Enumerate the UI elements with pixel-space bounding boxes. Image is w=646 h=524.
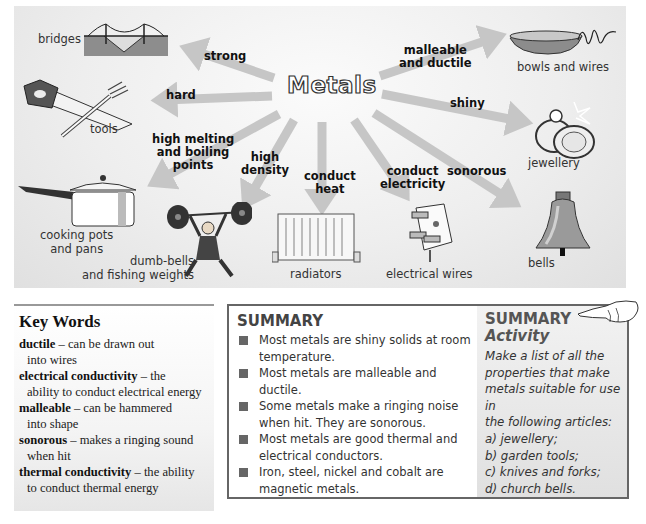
definition-cont: when hit [19,448,214,464]
term: thermal conductivity [19,465,131,479]
summary-heading: SUMMARY [237,312,477,330]
summary-item: Most metals are malleable and ductile. [237,365,477,398]
summary-text: Iron, steel, nickel and cobalt are magne… [259,465,444,496]
property-shiny: shiny [450,97,485,110]
activity-heading-line2: Activity [485,328,627,345]
bullet-square-icon [239,435,248,444]
activity-line: properties that make [485,365,627,382]
property-malleable: malleable and ductile [399,44,472,70]
definition: – makes a ringing sound [67,433,193,447]
definition: – can be hammered [71,401,172,415]
property-hard: hard [166,89,196,102]
caption-line: dumb-bells [82,254,194,268]
property-heat: conduct heat [304,170,356,196]
definition-cont: into shape [19,416,214,432]
label-line: and ductile [399,57,472,70]
property-sonorous: sonorous [447,165,506,178]
activity-heading-line1: SUMMARY [485,310,571,328]
activity-line: the following articles: [485,414,627,431]
summary-item: Some metals make a ringing noise when hi… [237,398,477,431]
activity-line: Make a list of all the [485,348,627,365]
pointing-hand-icon [576,298,642,326]
use-bells: bells [528,256,555,270]
term: malleable [19,401,71,415]
property-density: high density [241,151,289,177]
radiator-icon [272,212,362,266]
definition-cont: into wires [19,352,214,368]
use-jewellery: jewellery [528,156,580,170]
cooking-pot-icon [18,174,144,230]
use-pots: cooking pots and pans [40,228,113,256]
bullet-square-icon [239,402,248,411]
summary-item: Iron, steel, nickel and cobalt are magne… [237,464,477,497]
term: electrical conductivity [19,369,138,383]
term: ductile [19,337,55,351]
property-electricity: conduct electricity [380,165,445,191]
use-wires: electrical wires [386,267,472,281]
summary-panel: SUMMARY Most metals are shiny solids at … [227,304,479,499]
caption-line: and fishing weights [82,268,194,282]
bullet-square-icon [239,336,248,345]
metals-diagram: Metals strong hard high melting and boil… [14,6,626,288]
property-strong: strong [204,50,246,63]
label-line: electricity [380,178,445,191]
activity-line: b) garden tools; [485,448,627,465]
summary-text: Most metals are shiny solids at room tem… [259,333,471,364]
key-word-entry: sonorous – makes a ringing soundwhen hit [19,432,214,464]
activity-line: c) knives and forks; [485,464,627,481]
key-word-entry: malleable – can be hammeredinto shape [19,400,214,432]
diagram-title: Metals [287,72,377,98]
caption-line: cooking pots [40,228,113,242]
key-word-entry: electrical conductivity – theability to … [19,368,214,400]
rings-icon [530,102,610,162]
definition-cont: to conduct thermal energy [19,480,214,496]
key-word-entry: ductile – can be drawn outinto wires [19,336,214,368]
summary-item: Most metals are good thermal and electri… [237,431,477,464]
summary-text: Some metals make a ringing noise when hi… [259,399,458,430]
activity-line: d) church bells. [485,481,627,498]
activity-line: a) jewellery; [485,431,627,448]
plug-icon [406,202,456,262]
bridge-icon [84,20,180,58]
activity-text: Make a list of all the properties that m… [485,348,627,497]
term: sonorous [19,433,67,447]
use-bridges: bridges [38,32,81,46]
label-line: heat [304,183,356,196]
definition: – the ability [131,465,194,479]
bullet-square-icon [239,468,248,477]
key-words-heading: Key Words [19,312,214,332]
summary-item: Most metals are shiny solids at room tem… [237,332,477,365]
label-line: density [241,164,289,177]
summary-list: Most metals are shiny solids at room tem… [229,332,477,497]
definition-cont: ability to conduct electrical energy [19,384,214,400]
summary-text: Most metals are malleable and ductile. [259,366,437,397]
use-radiators: radiators [290,267,342,281]
bowl-and-coil-icon [508,24,618,58]
activity-line: metals suitable for use in [485,381,627,414]
bullet-square-icon [239,369,248,378]
summary-text: Most metals are good thermal and electri… [259,432,458,463]
property-melting: high melting and boiling points [152,133,234,172]
label-line: points [152,159,234,172]
definition: – can be drawn out [55,337,154,351]
key-word-entry: thermal conductivity – the abilityto con… [19,464,214,496]
use-bowls: bowls and wires [517,60,609,74]
use-dumbbells: dumb-bells and fishing weights [82,254,194,282]
summary-activity-panel: SUMMARY Activity Make a list of all the … [477,304,629,499]
definition: – the [138,369,166,383]
key-words-panel: Key Words ductile – can be drawn outinto… [14,304,214,511]
use-tools: tools [90,122,118,136]
bell-icon [528,190,598,262]
